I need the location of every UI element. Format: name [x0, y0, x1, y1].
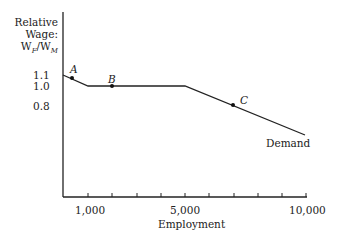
- x-tick-label-10000: 10,000: [289, 204, 326, 216]
- curve-label-demand: Demand: [266, 137, 310, 149]
- point-c: [231, 103, 235, 107]
- x-tick-label-5000: 5,000: [170, 204, 200, 216]
- plot-area: [0, 0, 338, 245]
- demand-curve: [63, 75, 305, 135]
- point-a: [70, 76, 74, 80]
- annotation-b: B: [108, 73, 116, 85]
- x-tick-label-1000: 1,000: [75, 204, 105, 216]
- annotation-c: C: [240, 94, 248, 106]
- annotation-a: A: [70, 63, 78, 75]
- x-axis-label: Employment: [158, 218, 225, 230]
